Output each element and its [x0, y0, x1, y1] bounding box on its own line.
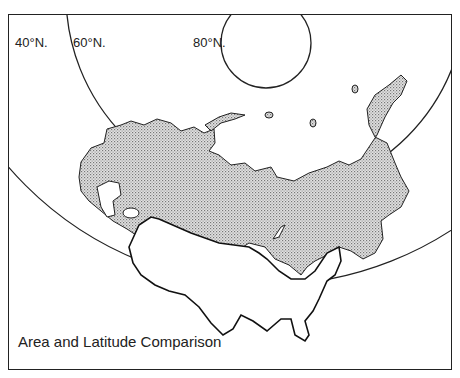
- map-caption: Area and Latitude Comparison: [18, 333, 221, 350]
- latitude-label-60n: 60°N.: [73, 35, 106, 50]
- arctic-island: [310, 119, 316, 127]
- aral-sea: [123, 208, 139, 218]
- latitude-label-80n: 80°N.: [193, 35, 226, 50]
- latitude-label-40n: 40°N.: [15, 35, 48, 50]
- arctic-island: [265, 112, 273, 118]
- novaya-zemlya: [205, 113, 245, 131]
- ussr-region: [79, 75, 409, 275]
- arctic-island: [352, 85, 358, 93]
- latitude-80n-circle: [221, 15, 311, 88]
- map-canvas: [9, 15, 452, 370]
- map-frame: 40°N. 60°N. 80°N.: [8, 14, 452, 370]
